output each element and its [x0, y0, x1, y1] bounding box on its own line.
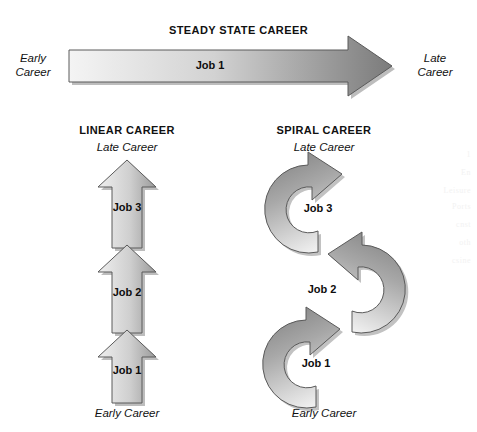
spiral-career-title: SPIRAL CAREER [244, 124, 404, 136]
bleed-line-7: csine [452, 256, 471, 265]
bleed-line-4: Ports [452, 202, 471, 211]
steady-state-start-line1: Early [20, 52, 46, 64]
steady-state-start-line2: Career [15, 66, 50, 78]
career-patterns-diagram: STEADY STATE CAREER Early Career Late Ca… [0, 0, 477, 432]
spiral-job-label-1: Job 1 [286, 357, 346, 369]
steady-state-end-label: Late Career [399, 51, 471, 79]
steady-state-title: STEADY STATE CAREER [0, 24, 477, 36]
bleed-line-1: 1 [467, 150, 472, 159]
bleed-line-3: Leisure [444, 186, 472, 195]
spiral-job-label-3: Job 3 [288, 202, 348, 214]
linear-job-label-3: Job 3 [97, 201, 157, 213]
bleed-line-6: oth [459, 238, 471, 247]
linear-career-title: LINEAR CAREER [47, 124, 207, 136]
linear-top-label: Late Career [47, 140, 207, 154]
spiral-bottom-label: Early Career [244, 406, 404, 420]
bleed-line-2: En [461, 168, 471, 177]
spiral-top-label: Late Career [244, 140, 404, 154]
linear-bottom-label: Early Career [47, 406, 207, 420]
spiral-job-label-2: Job 2 [292, 283, 352, 295]
steady-state-start-label: Early Career [0, 51, 66, 79]
steady-state-end-line2: Career [417, 66, 452, 78]
bleed-line-5: cnst [456, 220, 471, 229]
steady-state-job-label: Job 1 [120, 59, 300, 71]
steady-state-end-line1: Late [424, 52, 446, 64]
linear-job-label-1: Job 1 [97, 364, 157, 376]
linear-job-label-2: Job 2 [97, 286, 157, 298]
